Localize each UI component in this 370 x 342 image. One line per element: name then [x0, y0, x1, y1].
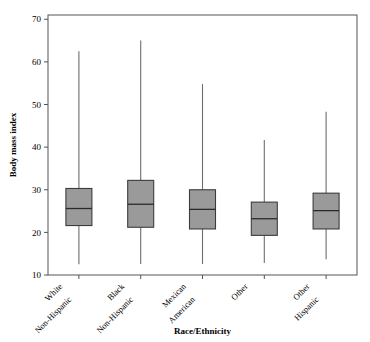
y-tick-label: 60: [32, 57, 42, 67]
box-plot-group[interactable]: [313, 112, 339, 259]
box-plot-group[interactable]: [190, 84, 216, 264]
y-tick-label: 40: [32, 142, 42, 152]
box-plot-group[interactable]: [66, 51, 92, 264]
x-axis-title: Race/Ethnicity: [174, 326, 231, 336]
y-tick-label: 30: [32, 185, 42, 195]
y-tick-label: 20: [32, 228, 42, 238]
x-tick-label: Non-Hispanic: [94, 294, 135, 335]
box-plot-group[interactable]: [128, 41, 154, 264]
y-axis-title: Body mass index: [8, 112, 18, 177]
chart-canvas: 10203040506070Body mass indexWhiteNon-Hi…: [0, 0, 370, 342]
x-tick-label: Other: [229, 281, 250, 302]
box-plot-group[interactable]: [251, 140, 277, 263]
y-tick-label: 50: [32, 100, 42, 110]
y-tick-label: 70: [32, 14, 42, 24]
box-iqr[interactable]: [66, 188, 92, 225]
y-tick-label: 10: [32, 270, 42, 280]
x-tick-label: Non-Hispanic: [33, 294, 74, 335]
boxplot-figure: 10203040506070Body mass indexWhiteNon-Hi…: [0, 0, 370, 342]
